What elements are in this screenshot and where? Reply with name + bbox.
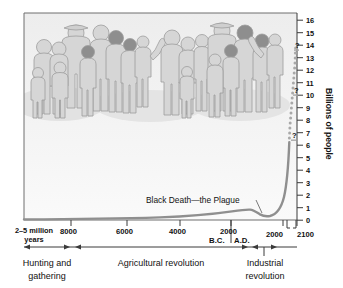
era-industrial-line2: revolution <box>232 271 298 281</box>
y-tick-4: 4 <box>306 166 310 175</box>
population-growth-chart: 16 15 14 13 12 11 10 9 8 7 6 5 4 3 2 1 0… <box>0 0 343 288</box>
x-tick-2000bc: 2000 <box>220 227 237 236</box>
x-tick-8000bc: 8000 <box>60 227 77 236</box>
x-tick-2000ad: 2000 <box>266 230 283 239</box>
era-agricultural: Agricultural revolution <box>96 258 226 268</box>
projection-question-14: ? <box>295 41 300 50</box>
era-hunting-line2: gathering <box>8 271 86 281</box>
x-tick-4000bc: 4000 <box>169 227 186 236</box>
y-tick-3: 3 <box>306 179 310 188</box>
y-tick-15: 15 <box>306 29 314 38</box>
projection-question-10: ? <box>294 86 299 95</box>
y-tick-9: 9 <box>306 104 310 113</box>
y-tick-10: 10 <box>306 91 314 100</box>
ad-label: A.D. <box>234 236 250 245</box>
y-tick-1: 1 <box>306 204 310 213</box>
bc-label: B.C. <box>209 236 225 245</box>
y-tick-6: 6 <box>306 141 310 150</box>
y-axis-title: Billions of people <box>324 88 334 160</box>
y-tick-12: 12 <box>306 66 314 75</box>
y-tick-2: 2 <box>306 191 310 200</box>
y-tick-8: 8 <box>306 116 310 125</box>
y-tick-11: 11 <box>306 79 314 88</box>
chart-canvas <box>0 0 343 288</box>
projection-question-7: ? <box>292 131 297 140</box>
y-tick-16: 16 <box>306 16 314 25</box>
y-tick-5: 5 <box>306 154 310 163</box>
x-tick-origin-line2: years <box>5 236 63 245</box>
era-ruler <box>24 245 297 256</box>
era-industrial-line1: Industrial <box>232 258 298 268</box>
era-hunting-line1: Hunting and <box>8 258 86 268</box>
y-tick-0: 0 <box>306 216 310 225</box>
y-tick-14: 14 <box>306 41 314 50</box>
x-tick-6000bc: 6000 <box>116 227 133 236</box>
black-death-annotation: Black Death—the Plague <box>146 195 240 205</box>
y-tick-13: 13 <box>306 54 314 63</box>
y-tick-7: 7 <box>306 129 310 138</box>
x-tick-2100ad: 2100 <box>297 230 314 239</box>
